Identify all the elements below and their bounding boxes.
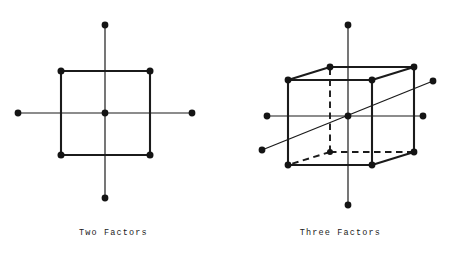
hidden-edge-to-front-bottom-left	[288, 152, 330, 165]
star-point-left	[15, 110, 22, 117]
corner-point	[147, 68, 154, 75]
corner-point	[58, 68, 65, 75]
star-point-bottom	[345, 202, 352, 209]
panel-three-factors: Three Factors	[227, 0, 454, 263]
center-point	[345, 113, 352, 120]
three-factor-design-diagram	[227, 0, 454, 220]
cube-vertex-front-bottom-left	[285, 162, 292, 169]
star-point-left	[264, 113, 271, 120]
star-point-diagonal-front	[259, 147, 266, 154]
caption-two-factors: Two Factors	[0, 228, 227, 238]
star-point-top	[102, 22, 109, 29]
star-point-bottom	[102, 195, 109, 202]
center-point	[102, 110, 109, 117]
cube-vertex-back-bottom-left-hidden	[327, 149, 333, 155]
cube-vertex-back-bottom-right	[411, 149, 418, 156]
cube-edge-depth-top-right	[372, 67, 414, 80]
cube-vertex-front-top-left	[285, 77, 292, 84]
corner-point	[58, 152, 65, 159]
star-point-diagonal-back	[430, 78, 437, 85]
caption-three-factors: Three Factors	[227, 228, 454, 238]
cube-vertex-front-bottom-right	[369, 162, 376, 169]
star-point-top	[345, 22, 352, 29]
cube-vertex-front-top-right	[369, 77, 376, 84]
cube-vertex-back-top-left	[327, 64, 334, 71]
star-point-right	[189, 110, 196, 117]
star-point-right	[420, 113, 427, 120]
two-factor-design-diagram	[0, 0, 227, 220]
cube-edge-depth-top-left	[288, 67, 330, 80]
cube-vertex-back-top-right	[411, 64, 418, 71]
figure-root: Two Factors	[0, 0, 454, 263]
cube-edge-depth-bottom-right	[372, 152, 414, 165]
corner-point	[147, 152, 154, 159]
panel-two-factors: Two Factors	[0, 0, 227, 263]
